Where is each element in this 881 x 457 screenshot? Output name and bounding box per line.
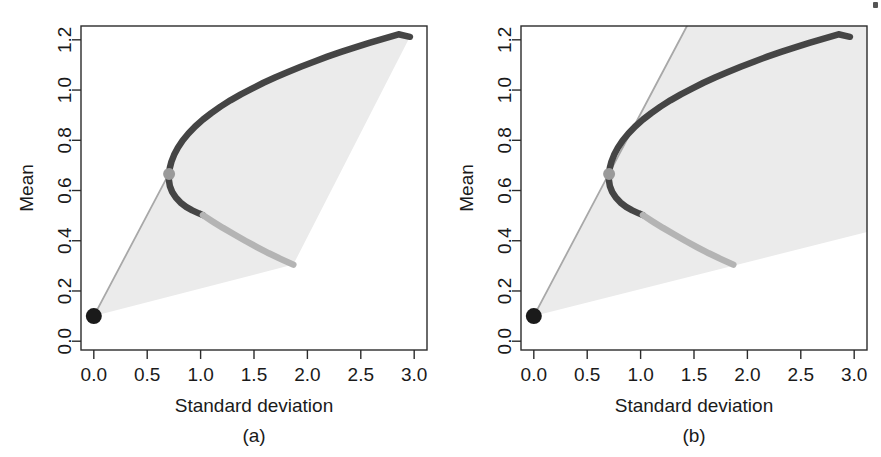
- x-tick-label: 0.0: [81, 364, 107, 385]
- marker-tangency-portfolio: [163, 168, 175, 180]
- y-tick-label: 0.0: [495, 328, 516, 354]
- y-tick-label: 1.0: [495, 77, 516, 103]
- y-tick-label: 1.0: [55, 77, 76, 103]
- x-tick-label: 3.0: [401, 364, 427, 385]
- x-tick-label: 0.0: [521, 364, 547, 385]
- x-tick-label: 1.5: [681, 364, 707, 385]
- x-tick-label: 2.0: [734, 364, 760, 385]
- y-axis-title: Mean: [16, 164, 37, 212]
- marker-risk-free-asset: [526, 308, 542, 324]
- x-axis-title: Standard deviation: [175, 395, 333, 416]
- x-tick-label: 1.5: [241, 364, 267, 385]
- plot-area: [526, 26, 867, 324]
- x-tick-label: 0.5: [134, 364, 160, 385]
- y-tick-label: 1.2: [495, 27, 516, 53]
- attainable-set-b-cone: [534, 26, 867, 316]
- attainable-set-a: [94, 34, 410, 316]
- y-tick-label: 0.2: [55, 278, 76, 304]
- y-tick-label: 0.4: [495, 227, 516, 254]
- chart-panel-a: 0.00.51.01.52.02.53.00.00.20.40.60.81.01…: [0, 0, 440, 457]
- x-tick-label: 1.0: [187, 364, 213, 385]
- panel-caption-a: (a): [242, 425, 265, 446]
- x-tick-label: 2.5: [788, 364, 814, 385]
- x-axis-title: Standard deviation: [615, 395, 773, 416]
- x-tick-label: 3.0: [841, 364, 867, 385]
- figure-container: 0.00.51.01.52.02.53.00.00.20.40.60.81.01…: [0, 0, 881, 457]
- y-tick-label: 0.4: [55, 227, 76, 254]
- chart-panel-b: 0.00.51.01.52.02.53.00.00.20.40.60.81.01…: [440, 0, 880, 457]
- y-tick-label: 1.2: [55, 27, 76, 53]
- y-axis-title: Mean: [456, 164, 477, 212]
- x-tick-label: 0.5: [574, 364, 600, 385]
- x-tick-label: 1.0: [627, 364, 653, 385]
- y-tick-label: 0.6: [55, 177, 76, 203]
- y-tick-label: 0.6: [495, 177, 516, 203]
- x-tick-label: 2.0: [294, 364, 320, 385]
- chart-svg-b: 0.00.51.01.52.02.53.00.00.20.40.60.81.01…: [440, 0, 880, 457]
- panel-caption-b: (b): [682, 425, 705, 446]
- marker-risk-free-asset: [86, 308, 102, 324]
- y-tick-label: 0.2: [495, 278, 516, 304]
- plot-area: [86, 34, 410, 324]
- x-tick-label: 2.5: [348, 364, 374, 385]
- chart-svg-a: 0.00.51.01.52.02.53.00.00.20.40.60.81.01…: [0, 0, 440, 457]
- marker-tangency-portfolio: [603, 168, 615, 180]
- scan-artifact: [873, 2, 878, 8]
- y-tick-label: 0.0: [55, 328, 76, 354]
- y-tick-label: 0.8: [55, 127, 76, 153]
- y-tick-label: 0.8: [495, 127, 516, 153]
